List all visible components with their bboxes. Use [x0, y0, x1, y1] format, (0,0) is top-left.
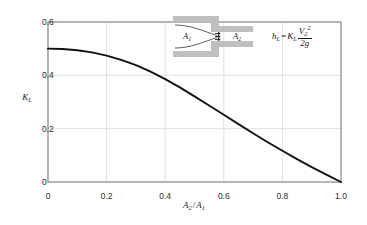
equation-velocity-exponent: 2 — [308, 24, 311, 31]
equation-fraction: V222g — [298, 25, 312, 48]
flow-arrow-top — [215, 32, 220, 34]
flow-arrow-middle — [215, 35, 220, 37]
equation-kl-subscript: L — [293, 35, 297, 42]
equation-velocity-subscript: 2 — [304, 30, 307, 37]
x-tick-label: 0.2 — [101, 191, 113, 201]
x-tick-label: 0 — [46, 191, 51, 201]
streamline-lower — [175, 38, 217, 49]
inlet-area-label: A1 — [182, 31, 191, 42]
x-tick-label: 1.0 — [335, 191, 347, 201]
x-tick-label: 0.4 — [159, 191, 171, 201]
y-axis-subscript: L — [28, 96, 32, 103]
equation-fraction-numerator: V22 — [298, 25, 312, 39]
figure-container: 0 0.2 0.4 0.6 0 0.2 0.4 0.6 0.8 1.0 KL A… — [0, 0, 367, 225]
flow-arrow-bottom — [215, 38, 220, 40]
contraction-upper-face — [211, 16, 219, 32]
sudden-contraction-inset-diagram: A1 A2 — [171, 14, 255, 61]
inlet-lower-wall — [173, 51, 211, 57]
y-axis-title: KL — [22, 92, 32, 103]
head-loss-equation: hL=KLV222g — [272, 25, 312, 48]
equation-gravity-symbol: g — [305, 38, 310, 48]
inlet-upper-wall — [173, 16, 211, 22]
inlet-area-subscript: 1 — [188, 36, 191, 42]
outlet-area-label: A2 — [232, 31, 241, 42]
contraction-lower-face — [211, 41, 219, 57]
equation-fraction-denominator: 2g — [298, 39, 312, 48]
streamline-upper — [175, 25, 217, 36]
x-axis-denominator-subscript: 1 — [202, 204, 205, 211]
x-tick-label: 0.8 — [276, 191, 288, 201]
outlet-lower-wall — [219, 41, 253, 47]
x-axis-title: A2/A1 — [183, 200, 205, 211]
outlet-area-subscript: 2 — [238, 36, 241, 42]
x-tick-label: 0.6 — [218, 191, 230, 201]
